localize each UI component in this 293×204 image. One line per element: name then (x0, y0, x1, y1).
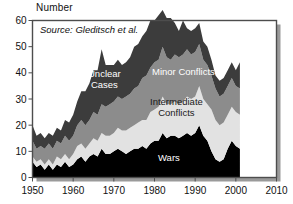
y-tick-label-50: 50 (15, 41, 27, 52)
y-tick-label-30: 30 (15, 94, 27, 105)
x-tick-label-1990: 1990 (184, 185, 207, 196)
x-tick-label-1970: 1970 (103, 185, 126, 196)
x-tick-label-1960: 1960 (62, 185, 85, 196)
x-tick-label-2000: 2000 (225, 185, 248, 196)
y-tick-label-10: 10 (15, 146, 27, 157)
source-annotation: Source: Gleditsch et al. (40, 24, 138, 35)
x-tick-label-2010: 2010 (265, 185, 288, 196)
y-tick-label-60: 60 (15, 15, 27, 26)
y-tick-label-40: 40 (15, 67, 27, 78)
y-tick-label-20: 20 (15, 120, 27, 131)
y-axis-title: Number (36, 2, 73, 13)
x-tick-label-1980: 1980 (143, 185, 166, 196)
x-tick-label-1950: 1950 (21, 185, 44, 196)
y-tick-label-0: 0 (21, 172, 27, 183)
